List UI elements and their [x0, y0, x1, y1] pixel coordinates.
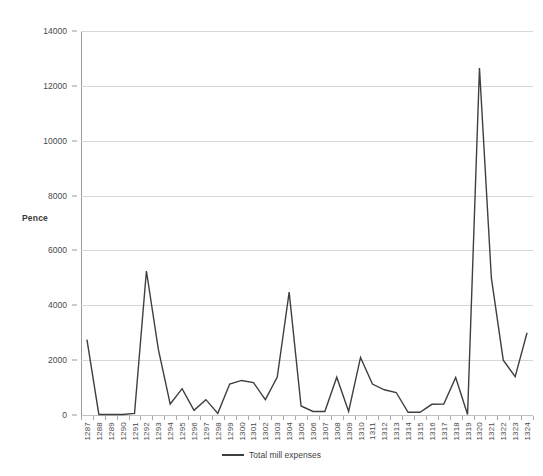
x-tick-label-1321: 1321: [487, 422, 496, 441]
y-tick-mark-0: [72, 415, 77, 416]
x-tick-label-1313: 1313: [392, 422, 401, 441]
x-tick-mark-1321: [485, 416, 486, 420]
x-tick-label-1291: 1291: [131, 422, 140, 441]
chart-legend: Total mill expenses: [0, 450, 543, 460]
plot-area: [81, 31, 533, 415]
x-tick-label-1324: 1324: [523, 422, 532, 441]
x-tick-mark-1295: [176, 416, 177, 420]
legend-label-total-mill-expenses: Total mill expenses: [249, 450, 321, 460]
x-tick-label-1288: 1288: [95, 422, 104, 441]
y-tick-mark-4000: [72, 305, 77, 306]
x-tick-mark-1289: [105, 416, 106, 420]
x-tick-mark-1317: [438, 416, 439, 420]
x-tick-mark-1287: [81, 416, 82, 420]
x-tick-mark-1312: [378, 416, 379, 420]
x-tick-mark-1309: [343, 416, 344, 420]
y-tick-mark-10000: [72, 140, 77, 141]
x-tick-mark-1320: [474, 416, 475, 420]
x-tick-label-1289: 1289: [107, 422, 116, 441]
x-tick-label-1287: 1287: [83, 422, 92, 441]
x-tick-label-1300: 1300: [238, 422, 247, 441]
x-tick-mark-1308: [331, 416, 332, 420]
x-tick-mark-1303: [271, 416, 272, 420]
x-tick-mark-1315: [414, 416, 415, 420]
y-tick-mark-14000: [72, 31, 77, 32]
x-tick-mark-1292: [140, 416, 141, 420]
y-tick-mark-8000: [72, 195, 77, 196]
x-tick-label-1293: 1293: [154, 422, 163, 441]
y-tick-label-12000: 12000: [43, 81, 67, 91]
x-tick-label-1319: 1319: [464, 422, 473, 441]
x-tick-label-1322: 1322: [499, 422, 508, 441]
y-tick-mark-12000: [72, 85, 77, 86]
x-tick-mark-1310: [355, 416, 356, 420]
x-tick-mark-1323: [509, 416, 510, 420]
x-tick-label-1302: 1302: [261, 422, 270, 441]
x-tick-label-1297: 1297: [202, 422, 211, 441]
x-tick-label-1304: 1304: [285, 422, 294, 441]
x-tick-label-1295: 1295: [178, 422, 187, 441]
x-tick-mark-1319: [462, 416, 463, 420]
x-tick-mark-1291: [129, 416, 130, 420]
x-tick-mark-1290: [117, 416, 118, 420]
x-tick-label-1312: 1312: [380, 422, 389, 441]
x-tick-mark-1307: [319, 416, 320, 420]
x-tick-label-1292: 1292: [142, 422, 151, 441]
x-tick-label-1294: 1294: [166, 422, 175, 441]
x-tick-label-1316: 1316: [428, 422, 437, 441]
y-tick-label-2000: 2000: [48, 355, 67, 365]
x-tick-mark-1288: [93, 416, 94, 420]
y-tick-label-6000: 6000: [48, 245, 67, 255]
x-tick-mark-1300: [236, 416, 237, 420]
x-tick-mark-1314: [402, 416, 403, 420]
x-tick-mark-1293: [152, 416, 153, 420]
x-tick-label-1315: 1315: [416, 422, 425, 441]
x-tick-mark-1294: [164, 416, 165, 420]
x-tick-label-1306: 1306: [309, 422, 318, 441]
line-chart-figure: Pence 02000400060008000100001200014000 1…: [0, 0, 543, 476]
x-tick-label-1320: 1320: [475, 422, 484, 441]
y-tick-label-0: 0: [62, 410, 67, 420]
x-tick-mark-1299: [224, 416, 225, 420]
y-tick-mark-2000: [72, 360, 77, 361]
y-axis-tick-group: 02000400060008000100001200014000: [0, 31, 77, 415]
x-tick-label-1318: 1318: [452, 422, 461, 441]
x-tick-mark-1298: [212, 416, 213, 420]
x-tick-label-1310: 1310: [357, 422, 366, 441]
x-tick-label-1314: 1314: [404, 422, 413, 441]
x-tick-label-1301: 1301: [249, 422, 258, 441]
x-tick-label-1307: 1307: [321, 422, 330, 441]
x-tick-label-1305: 1305: [297, 422, 306, 441]
x-tick-mark-1318: [450, 416, 451, 420]
x-tick-label-1309: 1309: [345, 422, 354, 441]
x-tick-mark-1313: [390, 416, 391, 420]
y-tick-mark-6000: [72, 250, 77, 251]
x-tick-label-1317: 1317: [440, 422, 449, 441]
x-tick-mark-1306: [307, 416, 308, 420]
y-tick-label-4000: 4000: [48, 300, 67, 310]
series-line-total-mill-expenses: [81, 31, 533, 415]
x-tick-label-1290: 1290: [119, 422, 128, 441]
x-tick-mark-1296: [188, 416, 189, 420]
x-tick-mark-1301: [248, 416, 249, 420]
y-tick-label-8000: 8000: [48, 191, 67, 201]
x-tick-mark-1316: [426, 416, 427, 420]
x-tick-mark-1311: [366, 416, 367, 420]
x-tick-label-1303: 1303: [273, 422, 282, 441]
x-tick-mark-1304: [283, 416, 284, 420]
x-tick-mark-1322: [497, 416, 498, 420]
x-tick-mark-1302: [259, 416, 260, 420]
x-tick-label-1308: 1308: [333, 422, 342, 441]
x-tick-label-1323: 1323: [511, 422, 520, 441]
x-tick-label-1311: 1311: [368, 422, 377, 440]
x-tick-mark-end: [533, 416, 534, 420]
y-tick-label-10000: 10000: [43, 136, 67, 146]
x-tick-mark-1305: [295, 416, 296, 420]
x-tick-label-1298: 1298: [214, 422, 223, 441]
y-tick-label-14000: 14000: [43, 26, 67, 36]
x-tick-mark-1324: [521, 416, 522, 420]
legend-line-swatch: [222, 454, 244, 456]
x-tick-label-1296: 1296: [190, 422, 199, 441]
x-tick-mark-1297: [200, 416, 201, 420]
x-tick-label-1299: 1299: [226, 422, 235, 441]
